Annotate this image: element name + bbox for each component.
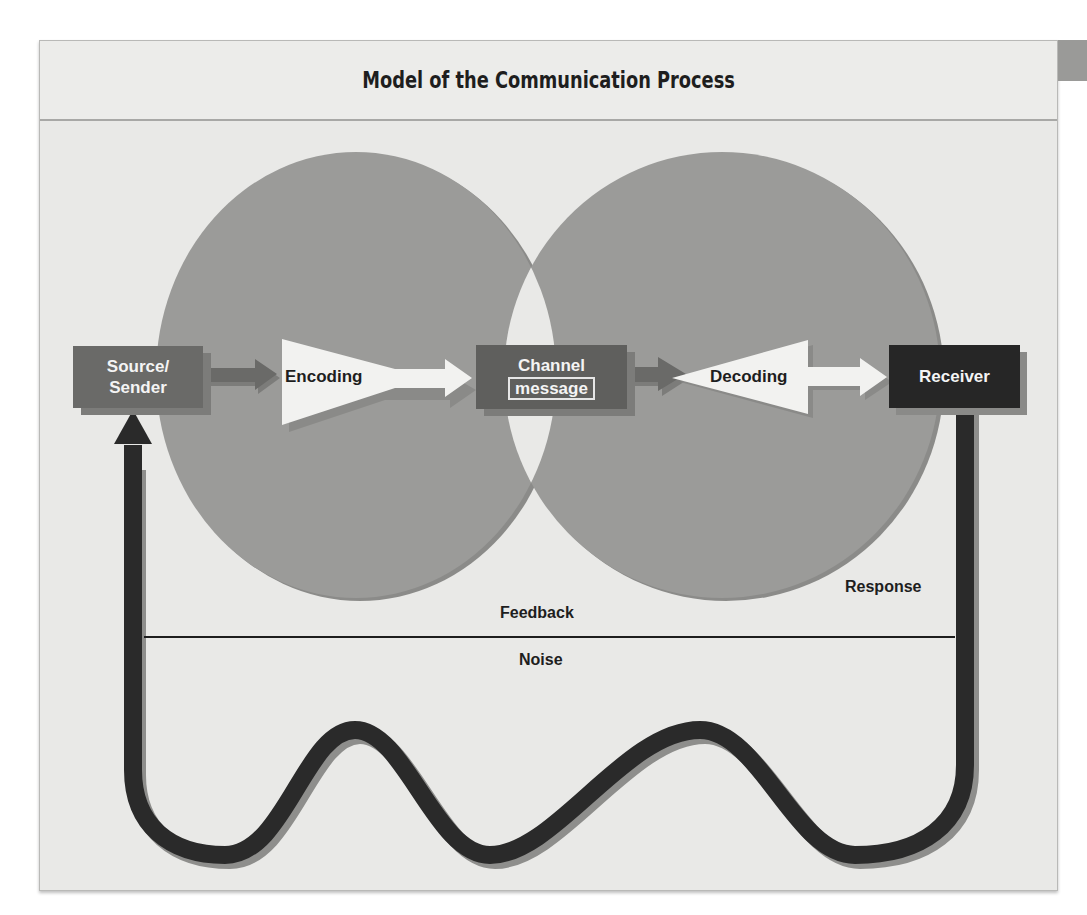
receiver-node: Receiver — [889, 345, 1020, 408]
feedback-arrow-head-icon — [114, 410, 152, 444]
communication-diagram — [0, 0, 1087, 915]
feedback-label: Feedback — [500, 604, 574, 622]
message-label: message — [508, 377, 595, 400]
channel-label: Channel — [518, 355, 585, 376]
response-label: Response — [845, 578, 921, 596]
source-label-line2: Sender — [109, 377, 167, 398]
source-sender-node: Source/ Sender — [73, 346, 203, 408]
channel-node: Channel message — [476, 345, 627, 409]
source-label-line1: Source/ — [107, 356, 169, 377]
encoding-label: Encoding — [285, 367, 362, 387]
noise-label: Noise — [519, 651, 563, 669]
decoding-label: Decoding — [710, 367, 787, 387]
receiver-label: Receiver — [919, 366, 990, 387]
